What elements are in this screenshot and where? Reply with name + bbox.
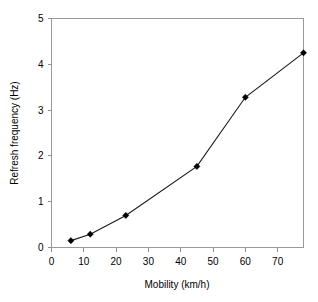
- x-tick-label: 0: [49, 256, 55, 267]
- y-tick-label: 1: [38, 196, 44, 207]
- y-tick-label: 2: [38, 150, 44, 161]
- y-tick-label: 3: [38, 105, 44, 116]
- y-tick-label: 5: [38, 13, 44, 24]
- x-tick-label: 60: [240, 256, 252, 267]
- chart-background: [0, 0, 318, 302]
- x-tick-label: 40: [175, 256, 187, 267]
- x-tick-label: 50: [207, 256, 219, 267]
- x-tick-label: 30: [143, 256, 155, 267]
- line-chart: 010203040506070 012345 Mobility (km/h) R…: [0, 0, 318, 302]
- y-tick-label: 4: [38, 59, 44, 70]
- x-axis-title: Mobility (km/h): [144, 279, 209, 290]
- y-tick-label: 0: [38, 242, 44, 253]
- chart-container: 010203040506070 012345 Mobility (km/h) R…: [0, 0, 318, 302]
- y-axis-title: Refresh frequency (Hz): [9, 81, 20, 184]
- x-tick-label: 20: [111, 256, 123, 267]
- x-tick-label: 70: [272, 256, 284, 267]
- x-tick-label: 10: [78, 256, 90, 267]
